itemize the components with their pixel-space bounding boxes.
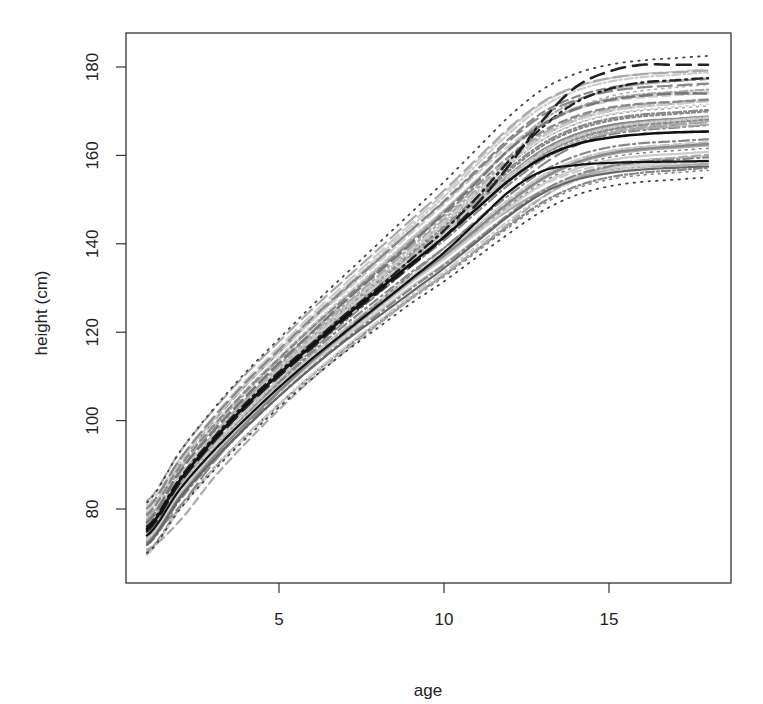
y-tick-label: 120 (83, 318, 102, 346)
growth-curve (147, 166, 708, 544)
x-tick-label: 10 (435, 610, 454, 629)
x-tick-label: 15 (600, 610, 619, 629)
growth-curve (147, 118, 708, 536)
y-axis-label: height (cm) (32, 270, 51, 355)
growth-curve (147, 143, 708, 536)
growth-curve (147, 125, 708, 535)
growth-curve (147, 139, 708, 532)
x-axis: 51015 (274, 583, 618, 629)
growth-curve (147, 161, 708, 555)
growth-curve (147, 125, 708, 528)
growth-curve (147, 117, 708, 529)
growth-curve (147, 64, 708, 531)
x-tick-label: 5 (274, 610, 283, 629)
growth-curve (147, 143, 708, 540)
growth-curve (147, 155, 708, 550)
growth-curve (147, 121, 708, 530)
y-tick-label: 180 (83, 53, 102, 81)
growth-curve (147, 117, 708, 536)
y-tick-label: 80 (83, 500, 102, 519)
growth-curve (147, 120, 708, 536)
growth-curve (147, 120, 708, 523)
growth-curve (147, 143, 708, 535)
growth-curve (147, 110, 708, 525)
growth-curve (147, 117, 708, 527)
growth-curve (147, 90, 708, 519)
growth-curve (147, 122, 708, 520)
growth-curves-chart: 51015 80100120140160180 age height (cm) (0, 0, 763, 704)
y-tick-label: 100 (83, 406, 102, 434)
growth-curve (147, 132, 708, 529)
x-axis-label: age (414, 681, 442, 700)
growth-curve (147, 73, 708, 513)
y-tick-label: 160 (83, 141, 102, 169)
y-tick-label: 140 (83, 230, 102, 258)
growth-curves (147, 56, 708, 555)
y-axis: 80100120140160180 (83, 53, 126, 519)
growth-curve (147, 122, 708, 537)
growth-curve (147, 84, 708, 508)
growth-curve (147, 112, 708, 529)
